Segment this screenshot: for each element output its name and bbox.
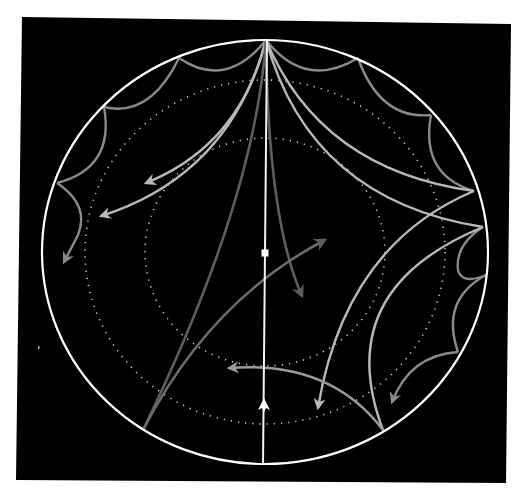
- poincare-disk-diagram: [0, 0, 521, 494]
- stray-speck: [38, 346, 40, 349]
- center-marker: [262, 250, 269, 257]
